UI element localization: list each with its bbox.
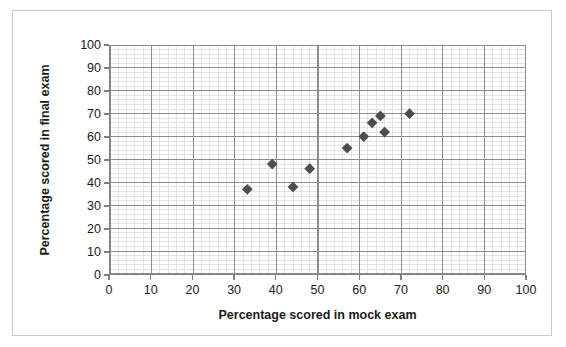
x-tick-label: 20 [185,283,199,297]
y-tick-label: 40 [53,176,101,190]
y-tick-label: 100 [53,38,101,52]
x-tick-label: 70 [394,283,408,297]
x-tick-mark [108,275,109,280]
x-tick-mark [317,275,318,280]
data-point-marker [288,182,299,193]
y-tick-label: 90 [53,61,101,75]
data-points-layer [110,45,526,274]
x-tick-mark [442,275,443,280]
y-tick-label: 0 [53,268,101,282]
y-tick-label: 50 [53,153,101,167]
x-tick-label: 0 [106,283,113,297]
y-tick-label: 10 [53,245,101,259]
x-tick-label: 80 [436,283,450,297]
x-tick-mark [150,275,151,280]
x-tick-mark [484,275,485,280]
y-tick-label: 80 [53,84,101,98]
plot-area [109,45,526,275]
x-tick-label: 100 [516,283,537,297]
x-tick-label: 30 [227,283,241,297]
data-point-marker [379,127,390,138]
x-tick-label: 60 [352,283,366,297]
x-tick-label: 90 [477,283,491,297]
y-tick-label: 60 [53,130,101,144]
y-tick-label: 30 [53,199,101,213]
x-tick-mark [359,275,360,280]
data-point-marker [375,111,386,122]
data-point-marker [342,143,353,154]
data-point-marker [242,184,253,195]
x-axis-title: Percentage scored in mock exam [109,308,526,322]
x-tick-mark [275,275,276,280]
x-tick-label: 10 [144,283,158,297]
data-point-marker [358,131,369,142]
data-point-marker [304,163,315,174]
x-tick-mark [400,275,401,280]
x-tick-label: 40 [269,283,283,297]
x-tick-mark [233,275,234,280]
y-axis-title: Percentage scored in final exam [35,45,55,275]
x-tick-mark [525,275,526,280]
x-tick-mark [192,275,193,280]
x-tick-label: 50 [311,283,325,297]
y-tick-label: 70 [53,107,101,121]
chart-outer-frame: Percentage scored in final exam 01020304… [12,10,552,336]
y-tick-label: 20 [53,222,101,236]
data-point-marker [267,159,278,170]
data-point-marker [367,117,378,128]
data-point-marker [404,108,415,119]
scatter-chart-figure: Percentage scored in final exam 01020304… [0,0,566,347]
